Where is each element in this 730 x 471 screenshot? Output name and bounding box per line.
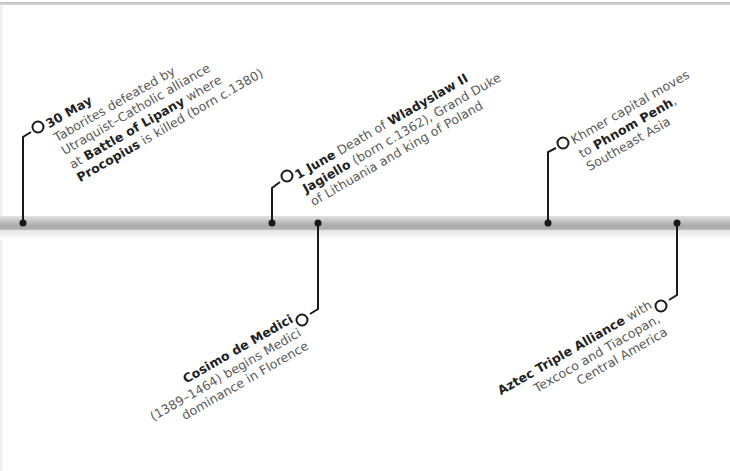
connector-death-wladyslaw xyxy=(269,171,293,227)
connector-aztec-triple-alliance xyxy=(656,220,681,312)
marker-circle-icon xyxy=(558,138,569,149)
timeline-dot-icon xyxy=(269,220,276,227)
timeline-dot-icon xyxy=(315,220,322,227)
connector-khmer-capital xyxy=(545,138,569,227)
marker-circle-icon xyxy=(297,315,308,326)
timeline-dot-icon xyxy=(545,220,552,227)
marker-circle-icon xyxy=(656,301,667,312)
connector-cosimo-de-medici xyxy=(297,220,322,326)
connector-battle-of-lipany xyxy=(20,122,44,227)
timeline-dot-icon xyxy=(20,220,27,227)
marker-circle-icon xyxy=(282,171,293,182)
timeline-dot-icon xyxy=(674,220,681,227)
marker-circle-icon xyxy=(33,122,44,133)
event-connectors xyxy=(0,0,730,471)
